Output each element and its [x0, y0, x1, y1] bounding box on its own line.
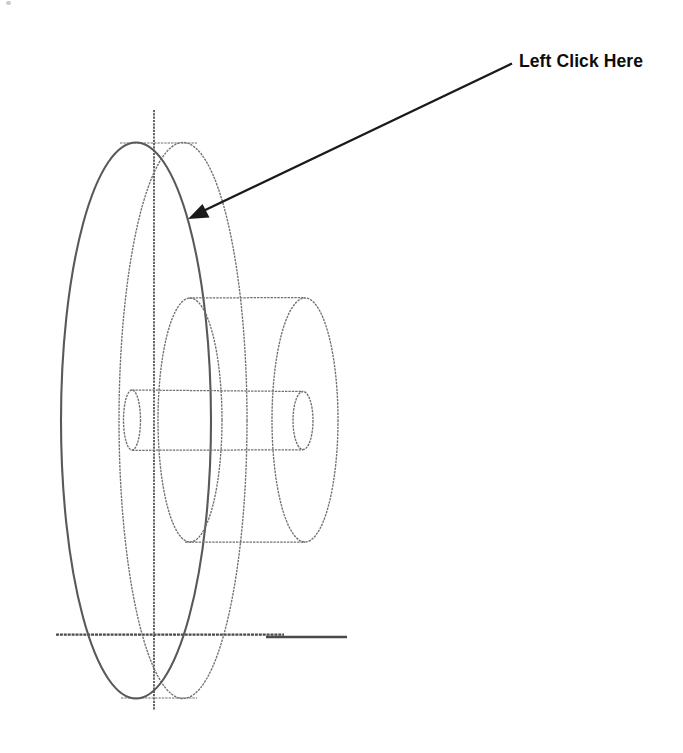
shaft-bottom-edge: [132, 450, 303, 451]
axis-lines: [56, 110, 347, 710]
hub-back-ellipse: [272, 298, 338, 542]
shaft-cylinder: [124, 390, 314, 450]
hub-cylinder: [158, 298, 338, 543]
callout-arrow-line: [200, 64, 512, 213]
click-callout-arrow: [188, 64, 512, 220]
hub-top-edge: [189, 298, 305, 299]
cad-wireframe-viewport[interactable]: [0, 0, 683, 753]
hub-front-ellipse: [158, 298, 222, 542]
callout-label: Left Click Here: [519, 51, 643, 72]
disk-back-ellipse: [119, 143, 247, 699]
shaft-top-edge: [132, 390, 303, 392]
disk-front-ellipse[interactable]: [61, 143, 211, 699]
scanned-figure-page: Left Click Here: [0, 0, 683, 753]
arrowhead-icon: [188, 204, 210, 219]
shaft-back-ellipse: [293, 392, 313, 450]
shaft-front-ellipse: [124, 390, 141, 450]
